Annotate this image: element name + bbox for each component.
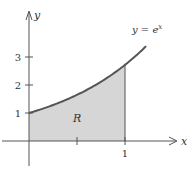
curve-label: y = ex bbox=[131, 23, 162, 35]
curve-label-exp: x bbox=[158, 23, 162, 31]
x-axis-label: x bbox=[181, 135, 188, 148]
y-tick-label: 3 bbox=[15, 52, 21, 63]
exp-area-chart: 1123 x y R y = ex bbox=[0, 0, 192, 177]
x-tick-label: 1 bbox=[122, 148, 128, 159]
y-tick-label: 1 bbox=[15, 108, 21, 119]
region-label: R bbox=[72, 112, 81, 125]
y-tick-label: 2 bbox=[15, 80, 21, 91]
y-axis-label: y bbox=[33, 9, 41, 22]
curve-label-lhs: y = bbox=[131, 24, 152, 35]
